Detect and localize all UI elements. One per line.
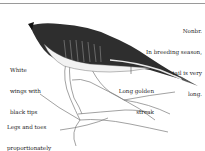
annotation-line: Legs and toes	[7, 124, 67, 131]
annotation-line: streak	[110, 109, 154, 116]
annotation-line: White	[10, 67, 41, 74]
annotation-line: Nonbr.	[146, 28, 202, 35]
annotation-line: long.	[146, 91, 202, 98]
annotation-streak: Long golden streak	[110, 74, 154, 123]
annotation-nonbreeding: Nonbr. In breeding season, tail is very …	[146, 14, 202, 105]
annotation-line: wings with	[10, 88, 41, 95]
annotation-line: Long golden	[110, 88, 154, 95]
annotation-line: tail is very	[146, 70, 202, 77]
annotation-legs: Legs and toes proportionately shorter th…	[7, 110, 67, 151]
annotation-line: proportionately	[7, 145, 67, 151]
annotation-line: In breeding season,	[146, 49, 202, 56]
